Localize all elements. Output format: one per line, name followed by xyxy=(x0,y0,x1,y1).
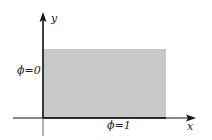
shaded-region xyxy=(43,49,166,118)
y-axis-label: y xyxy=(51,13,57,24)
phi-zero-label: ϕ=0 xyxy=(17,65,41,76)
x-axis-label: x xyxy=(187,121,193,132)
phi-one-label: ϕ=1 xyxy=(107,120,131,131)
